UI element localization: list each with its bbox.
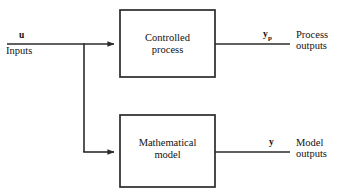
process-output-caption-line2: outputs bbox=[296, 40, 328, 51]
model-output-caption: Model outputs bbox=[296, 137, 327, 160]
block-controlled-process-label: Controlled process bbox=[120, 32, 215, 57]
input-caption-label: Inputs bbox=[6, 45, 32, 56]
block-controlled-process-line1: Controlled bbox=[145, 32, 190, 43]
block-mathematical-model-label: Mathematical model bbox=[120, 137, 215, 162]
model-output-variable-base: y bbox=[269, 137, 274, 147]
block-diagram-canvas: u Inputs Controlled process Mathematical… bbox=[0, 0, 346, 196]
process-output-caption: Process outputs bbox=[296, 29, 328, 52]
process-output-variable-label: yp bbox=[263, 29, 272, 42]
diagram-vector-layer bbox=[0, 0, 346, 196]
process-output-variable-subscript: p bbox=[268, 34, 272, 42]
block-mathematical-model-line1: Mathematical bbox=[139, 137, 197, 148]
block-mathematical-model-line2: model bbox=[154, 149, 180, 160]
input-variable-label: u bbox=[19, 30, 24, 40]
model-output-variable-label: y bbox=[269, 137, 274, 150]
block-controlled-process-line2: process bbox=[152, 44, 184, 55]
process-output-caption-line1: Process bbox=[296, 29, 328, 40]
model-output-caption-line2: outputs bbox=[296, 148, 327, 159]
model-output-caption-line1: Model bbox=[296, 137, 323, 148]
